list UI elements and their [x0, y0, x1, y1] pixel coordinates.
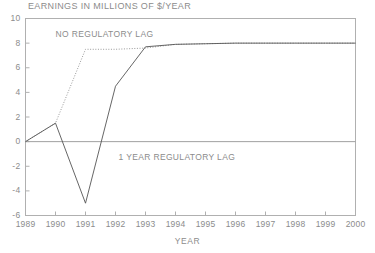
x-tick-label: 1995: [191, 219, 221, 229]
series-line-0: [26, 43, 356, 142]
chart-figure: EARNINGS IN MILLIONS OF $/YEAR -6-4-2024…: [0, 0, 375, 253]
y-tick-label: 10: [1, 13, 21, 23]
data-series-group: [26, 43, 356, 203]
series-annotation: NO REGULATORY LAG: [56, 29, 154, 39]
x-tick-label: 2000: [341, 219, 371, 229]
x-tick-label: 1991: [71, 219, 101, 229]
x-tick-label: 1999: [311, 219, 341, 229]
y-tick-label: 2: [1, 112, 21, 122]
series-line-1: [26, 43, 356, 203]
x-tick-label: 1994: [161, 219, 191, 229]
y-tick-label: 8: [1, 38, 21, 48]
series-annotation: 1 YEAR REGULATORY LAG: [119, 152, 236, 162]
y-tick-label: 0: [1, 136, 21, 146]
axis-ticks: [26, 19, 356, 216]
x-tick-label: 1993: [131, 219, 161, 229]
x-tick-label: 1996: [221, 219, 251, 229]
x-tick-label: 1997: [251, 219, 281, 229]
x-axis-title: YEAR: [0, 236, 375, 246]
y-tick-label: 4: [1, 87, 21, 97]
x-tick-label: 1998: [281, 219, 311, 229]
plot-frame: [26, 19, 356, 216]
y-tick-label: -2: [1, 161, 21, 171]
x-tick-label: 1992: [101, 219, 131, 229]
chart-title: EARNINGS IN MILLIONS OF $/YEAR: [28, 1, 191, 11]
y-tick-label: 6: [1, 62, 21, 72]
x-tick-label: 1990: [41, 219, 71, 229]
x-tick-label: 1989: [11, 219, 41, 229]
y-tick-label: -4: [1, 185, 21, 195]
